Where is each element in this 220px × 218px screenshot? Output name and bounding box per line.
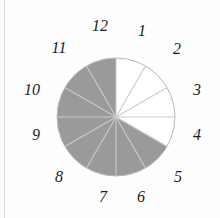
- hour-label-7: 7: [99, 189, 107, 205]
- hour-label-6: 6: [137, 189, 145, 205]
- hour-label-5: 5: [174, 169, 182, 185]
- hour-label-3: 3: [193, 82, 201, 98]
- hour-label-12: 12: [92, 18, 108, 34]
- hour-label-11: 11: [52, 40, 67, 56]
- hour-label-10: 10: [24, 82, 40, 98]
- hour-label-2: 2: [173, 41, 181, 57]
- clock-pie-chart: [0, 0, 220, 218]
- hour-label-9: 9: [32, 127, 40, 143]
- pie-chart-figure: 121234567891011: [0, 0, 220, 218]
- hour-label-4: 4: [193, 127, 201, 143]
- hour-label-8: 8: [55, 169, 63, 185]
- figure-page: 121234567891011: [0, 0, 220, 218]
- hour-label-1: 1: [138, 23, 146, 39]
